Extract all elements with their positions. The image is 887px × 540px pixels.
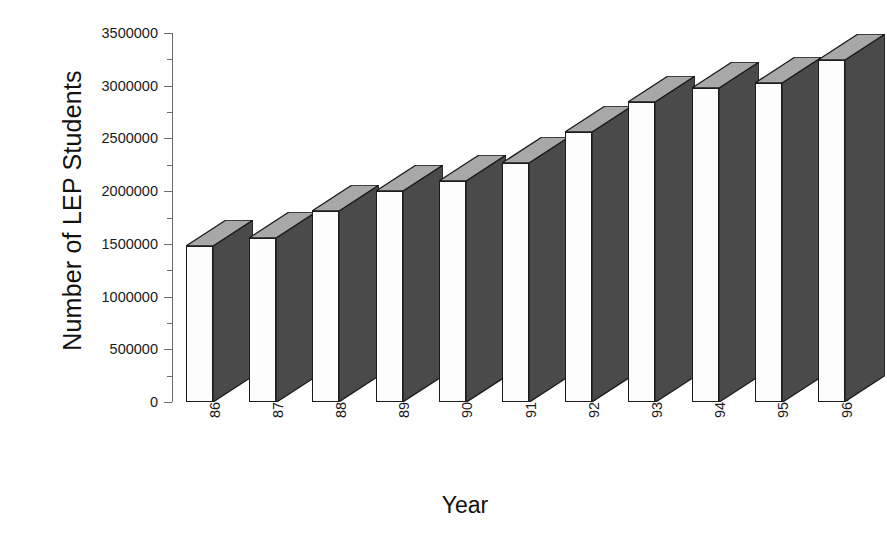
- bar-front-face: [755, 83, 782, 402]
- bar-side-face: [782, 57, 822, 402]
- bar-front-face: [565, 132, 592, 402]
- y-axis-tick: [164, 33, 172, 34]
- y-axis-minor-tick: [167, 112, 172, 113]
- bar-side-face: [719, 62, 759, 402]
- bar-front-face: [502, 163, 529, 402]
- y-axis-line: [172, 33, 173, 402]
- bar-top-face: [186, 220, 253, 248]
- bar-front-face: [628, 102, 655, 402]
- bar-front-face: [376, 191, 403, 402]
- bar-top-face: [755, 57, 822, 85]
- bar-side-face: [466, 155, 506, 402]
- bar-side-face: [403, 165, 443, 402]
- bar-front-face: [249, 238, 276, 402]
- bar-top-face: [565, 106, 632, 134]
- y-axis-minor-tick: [167, 376, 172, 377]
- y-axis-tick: [164, 402, 172, 403]
- bar-top-face: [439, 155, 506, 183]
- bar-top-face: [312, 185, 379, 213]
- y-axis-tick-label: 1500000: [86, 236, 158, 252]
- y-axis-tick-label: 2500000: [86, 130, 158, 146]
- bar-side-face: [845, 34, 885, 402]
- bar-front-face: [186, 246, 213, 402]
- bar-side-face: [529, 137, 569, 402]
- plot-area: 3500000300000025000002000000150000010000…: [0, 0, 887, 540]
- y-axis-minor-tick: [167, 323, 172, 324]
- bar-front-face: [312, 211, 339, 402]
- x-axis-title: Year: [400, 492, 530, 519]
- bar-side-face: [655, 76, 695, 402]
- bar-front-face: [692, 88, 719, 402]
- y-axis-tick-label: 2000000: [86, 183, 158, 199]
- bar-front-face: [818, 60, 845, 402]
- y-axis-tick-label: 3000000: [86, 78, 158, 94]
- y-axis-tick: [164, 244, 172, 245]
- bar-front-face: [439, 181, 466, 402]
- y-axis-tick-label: 0: [86, 394, 158, 410]
- y-axis-minor-tick: [167, 165, 172, 166]
- bar-side-face: [339, 185, 379, 402]
- bar-top-face: [502, 137, 569, 165]
- y-axis-tick-label: 500000: [86, 341, 158, 357]
- bar-top-face: [818, 34, 885, 62]
- bar-top-face: [376, 165, 443, 193]
- y-axis-tick: [164, 349, 172, 350]
- y-axis-tick-label: 1000000: [86, 289, 158, 305]
- y-axis-tick: [164, 191, 172, 192]
- y-axis-tick: [164, 138, 172, 139]
- y-axis-minor-tick: [167, 59, 172, 60]
- bar-top-face: [692, 62, 759, 90]
- y-axis-tick-label: 3500000: [86, 25, 158, 41]
- bar-chart-figure: Number of LEP Students 35000003000000250…: [0, 0, 887, 540]
- bar-side-face: [592, 106, 632, 402]
- y-axis-minor-tick: [167, 270, 172, 271]
- bar-top-face: [628, 76, 695, 104]
- y-axis-minor-tick: [167, 218, 172, 219]
- y-axis-tick: [164, 297, 172, 298]
- bar-side-face: [276, 212, 316, 402]
- y-axis-tick: [164, 86, 172, 87]
- bar-top-face: [249, 212, 316, 240]
